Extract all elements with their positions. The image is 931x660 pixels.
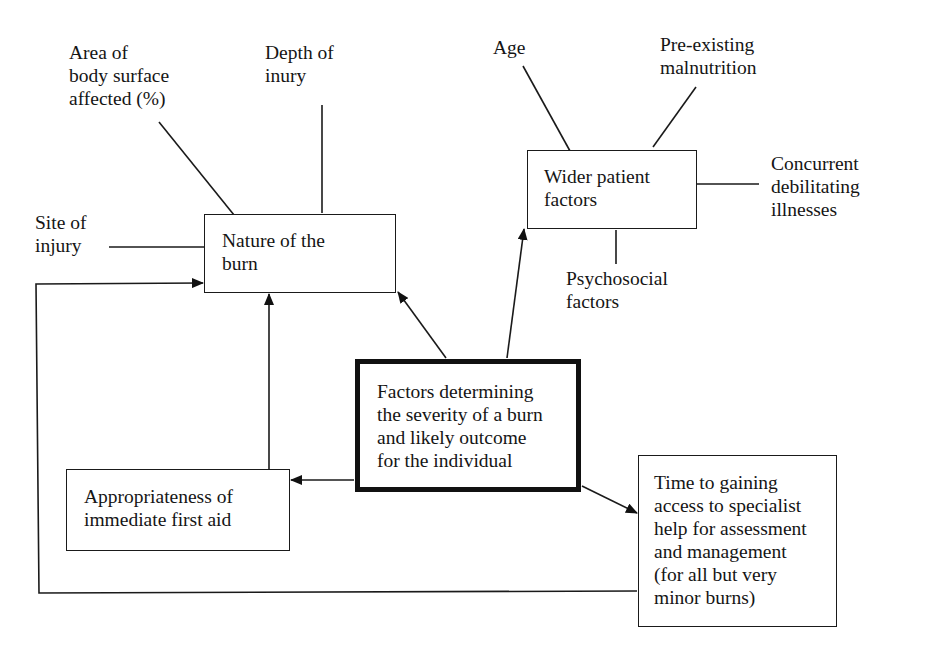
label-psychosocial-factors: Psychosocial factors xyxy=(566,267,668,313)
arrow-central-to-nature xyxy=(398,292,446,358)
line-area-to-nature xyxy=(159,122,234,215)
label-concurrent-illnesses: Concurrent debilitating illnesses xyxy=(771,152,860,221)
arrow-central-to-time xyxy=(582,486,637,513)
line-age-to-wider xyxy=(523,66,570,151)
line-malnutrition-to-wider xyxy=(653,87,696,147)
label-depth-of-injury: Depth of inury xyxy=(265,41,334,87)
box-time-to-specialist-label: Time to gaining access to specialist hel… xyxy=(654,471,807,609)
arrow-central-to-wider xyxy=(507,229,524,358)
box-first-aid-label: Appropriateness of immediate first aid xyxy=(84,485,233,531)
box-nature-of-burn-label: Nature of the burn xyxy=(222,229,325,275)
box-first-aid: Appropriateness of immediate first aid xyxy=(66,469,290,551)
box-nature-of-burn: Nature of the burn xyxy=(204,214,396,293)
label-area-of-body-surface: Area of body surface affected (%) xyxy=(69,41,169,110)
label-pre-existing-malnutrition: Pre-existing malnutrition xyxy=(660,33,756,79)
label-age: Age xyxy=(493,36,526,59)
box-central-factors: Factors determining the severity of a bu… xyxy=(355,359,581,492)
burn-severity-diagram: Area of body surface affected (%) Depth … xyxy=(0,0,931,660)
label-site-of-injury: Site of injury xyxy=(35,211,86,257)
box-wider-patient-factors: Wider patient factors xyxy=(527,150,697,229)
box-time-to-specialist: Time to gaining access to specialist hel… xyxy=(638,455,837,627)
box-central-factors-label: Factors determining the severity of a bu… xyxy=(377,380,543,472)
box-wider-patient-factors-label: Wider patient factors xyxy=(544,165,650,211)
